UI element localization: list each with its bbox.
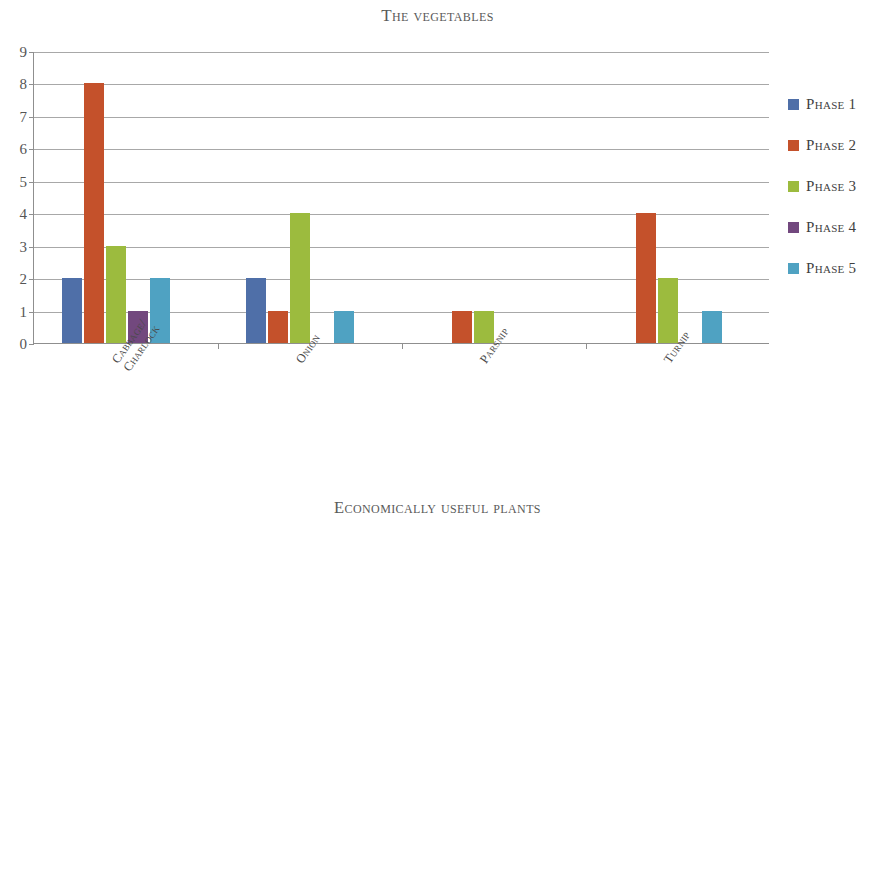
bars-vegetables: [34, 52, 769, 343]
legend-swatch-icon: [788, 99, 799, 110]
y-axis-tick: [29, 344, 34, 345]
bar: [636, 213, 656, 343]
y-axis-tick-label: 8: [20, 77, 28, 92]
chart-title-economically-useful-plants: Economically useful plants: [0, 492, 875, 518]
legend-swatch-icon: [788, 222, 799, 233]
y-axis-tick-label: 9: [20, 45, 28, 60]
bar: [106, 246, 126, 343]
bar: [290, 213, 310, 343]
y-axis-tick-label: 1: [20, 304, 28, 319]
chart-economically-useful-plants: Economically useful plants 0246810121416…: [0, 492, 875, 877]
y-axis-tick-label: 6: [20, 142, 28, 157]
legend-item-phase-1[interactable]: Phase 1: [788, 84, 856, 125]
bar: [702, 311, 722, 343]
legend-item-label: Phase 4: [806, 219, 856, 236]
legend-item-label: Phase 2: [806, 137, 856, 154]
legend-swatch-icon: [788, 263, 799, 274]
bar: [658, 278, 678, 343]
x-axis-group-tick: [218, 343, 219, 349]
y-axis-tick-label: 5: [20, 174, 28, 189]
y-axis-tick-label: 4: [20, 207, 28, 222]
bar: [246, 278, 266, 343]
legend-swatch-icon: [788, 181, 799, 192]
plot-area-vegetables: 0123456789: [33, 52, 769, 344]
y-axis-tick-label: 2: [20, 272, 28, 287]
legend-swatch-icon: [788, 140, 799, 151]
x-axis-group-tick: [586, 343, 587, 349]
legend-item-label: Phase 5: [806, 260, 856, 277]
legend-item-label: Phase 1: [806, 96, 856, 113]
legend-item-label: Phase 3: [806, 178, 856, 195]
bar: [62, 278, 82, 343]
legend-item-phase-5[interactable]: Phase 5: [788, 248, 856, 289]
legend-item-phase-4[interactable]: Phase 4: [788, 207, 856, 248]
bar: [452, 311, 472, 343]
x-axis-group-tick: [402, 343, 403, 349]
chart-title-vegetables: The vegetables: [0, 0, 875, 26]
chart-vegetables: The vegetables 0123456789 Cabbage/ Charl…: [0, 0, 875, 480]
y-axis-tick-label: 3: [20, 239, 28, 254]
bar: [268, 311, 288, 343]
bar: [334, 311, 354, 343]
legend-item-phase-2[interactable]: Phase 2: [788, 125, 856, 166]
y-axis-tick-label: 7: [20, 109, 28, 124]
legend-vegetables: Phase 1Phase 2Phase 3Phase 4Phase 5: [788, 84, 856, 289]
bar: [84, 83, 104, 343]
y-axis-tick-label: 0: [20, 337, 28, 352]
legend-item-phase-3[interactable]: Phase 3: [788, 166, 856, 207]
